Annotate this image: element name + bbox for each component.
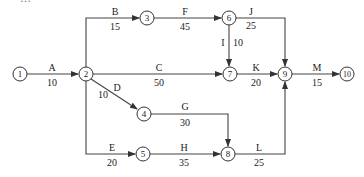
node-label-9: 9 (283, 69, 288, 79)
node-label-10: 10 (343, 70, 351, 79)
node-label-2: 2 (84, 69, 89, 79)
activity-duration-K: 20 (251, 77, 261, 88)
activity-name-L: L (256, 142, 262, 153)
node-label-1: 1 (18, 69, 23, 79)
activity-duration-F: 45 (180, 21, 190, 32)
activity-name-G: G (181, 101, 188, 112)
network-diagram: 1 2 3 4 5 6 7 8 9 10 A 10 B 15 C 50 D 10… (0, 0, 364, 177)
activity-duration-L: 25 (254, 157, 264, 168)
activity-name-F: F (182, 6, 188, 17)
activity-duration-B: 15 (110, 21, 120, 32)
activity-name-A: A (48, 62, 56, 73)
activity-duration-M: 15 (312, 77, 322, 88)
node-label-7: 7 (228, 69, 233, 79)
activity-duration-G: 30 (180, 117, 190, 128)
activity-name-I: I (221, 37, 224, 48)
activity-duration-J: 25 (246, 20, 256, 31)
activity-name-B: B (112, 6, 119, 17)
activity-name-E: E (109, 142, 115, 153)
node-label-5: 5 (141, 149, 146, 159)
activity-duration-H: 35 (179, 157, 189, 168)
node-label-8: 8 (226, 149, 231, 159)
activity-duration-I: 10 (233, 37, 243, 48)
activity-duration-E: 20 (107, 157, 117, 168)
activity-name-H: H (180, 142, 187, 153)
activity-name-J: J (249, 6, 253, 17)
node-label-6: 6 (227, 13, 232, 23)
activity-name-C: C (156, 62, 163, 73)
activity-name-M: M (313, 62, 322, 73)
node-label-3: 3 (145, 13, 150, 23)
activity-duration-D: 10 (98, 89, 108, 100)
activity-name-D: D (113, 82, 120, 93)
activity-name-K: K (252, 62, 260, 73)
activity-duration-C: 50 (154, 77, 164, 88)
node-label-4: 4 (142, 109, 147, 119)
edge-J (236, 18, 285, 66)
activity-duration-A: 10 (47, 77, 57, 88)
